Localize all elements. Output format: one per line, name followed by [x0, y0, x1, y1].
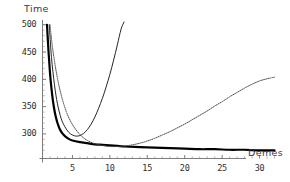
series-thick-decay-curve [47, 25, 275, 151]
x-axis-title: Demes [248, 147, 283, 158]
y-axis-title: Time [24, 3, 49, 14]
y-tick-label: 400 [13, 74, 37, 84]
data-series-group [47, 22, 275, 150]
y-tick-label: 350 [13, 101, 37, 111]
series-dotted-u-curve [50, 25, 275, 147]
series-thin-u-curve [49, 22, 124, 136]
y-tick-label: 300 [13, 128, 37, 138]
tick-marks-group [43, 25, 275, 159]
x-tick-label: 5 [63, 163, 81, 173]
x-tick-label: 15 [138, 163, 156, 173]
x-tick-label: 25 [213, 163, 231, 173]
chart-container: Time Demes 300350400450500 51015202530 [0, 0, 290, 182]
y-tick-label: 500 [13, 19, 37, 29]
x-tick-label: 10 [101, 163, 119, 173]
y-tick-label: 450 [13, 47, 37, 57]
axes-group [40, 20, 247, 163]
x-tick-label: 20 [176, 163, 194, 173]
plot-area [0, 0, 290, 182]
x-tick-label: 30 [251, 163, 269, 173]
